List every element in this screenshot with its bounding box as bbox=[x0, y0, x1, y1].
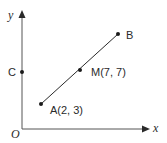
y-axis-arrow-icon bbox=[19, 10, 26, 18]
point-a-label: A(2, 3) bbox=[50, 104, 83, 116]
y-axis-label: y bbox=[7, 8, 14, 22]
origin-label: O bbox=[11, 127, 20, 141]
point-c bbox=[20, 70, 24, 74]
point-b bbox=[116, 32, 120, 36]
point-b-label: B bbox=[126, 29, 133, 41]
point-a bbox=[39, 102, 43, 106]
x-axis-label: x bbox=[152, 121, 159, 135]
point-c-label: C bbox=[8, 66, 16, 78]
coordinate-diagram: y x O A(2, 3) M(7, 7) B C bbox=[0, 0, 167, 143]
point-m bbox=[78, 68, 82, 72]
point-m-label: M(7, 7) bbox=[91, 66, 126, 78]
x-axis-arrow-icon bbox=[142, 126, 150, 133]
